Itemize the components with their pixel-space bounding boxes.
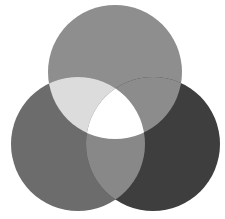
venn-diagram: [0, 0, 225, 219]
venn-diagram-svg: [0, 0, 225, 219]
